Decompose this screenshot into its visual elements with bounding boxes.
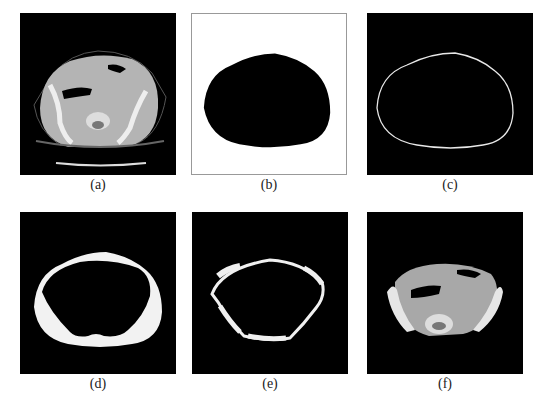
panel-d-fat-ring	[20, 212, 176, 374]
contour-image	[367, 13, 533, 175]
muscle-ring-image	[192, 212, 348, 374]
panel-f-inner-region	[367, 212, 523, 374]
caption-b: (b)	[191, 177, 347, 193]
panel-a-original-ct	[20, 13, 176, 175]
panel-e-muscle-ring	[192, 212, 348, 374]
panel-b-body-mask	[191, 13, 347, 175]
caption-d: (d)	[20, 376, 176, 392]
caption-e: (e)	[192, 376, 348, 392]
caption-c: (c)	[372, 177, 528, 193]
caption-f: (f)	[367, 376, 523, 392]
inner-region-image	[367, 212, 523, 374]
mask-image	[192, 14, 346, 174]
caption-a: (a)	[20, 177, 176, 193]
fat-ring-image	[20, 212, 176, 374]
panel-c-contour	[367, 13, 533, 175]
ct-slice-image	[20, 13, 176, 175]
